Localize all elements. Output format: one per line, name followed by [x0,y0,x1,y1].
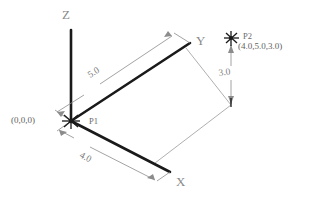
coordinate-diagram: Z Y X 5.0 [0,0,313,204]
dim-arrow-end [147,174,155,180]
dimension-z-3: 3.0 [218,45,234,104]
p2-coords-label: (4.0,5.0,3.0) [238,41,282,51]
origin-coords-label: (0,0,0) [11,115,35,125]
z-axis-label: Z [62,7,70,22]
origin-point-marker [62,113,80,129]
dimension-label-3: 3.0 [218,66,231,78]
dim-arrow-start [228,45,234,53]
x-axis-label: X [176,174,186,189]
diagram-canvas: Z Y X 5.0 [0,0,313,204]
dimension-x-4: 4.0 [57,121,170,181]
y-axis-label: Y [196,33,206,48]
dimension-y-5: 5.0 [55,31,190,121]
p2-label: P2 [243,31,252,41]
x-axis-line [71,121,170,172]
y-axis-line [71,43,190,121]
p1-label: P1 [89,116,98,126]
dim-arrow-end [164,31,172,37]
p2-point-marker [224,31,239,46]
dimension-label-5: 5.0 [86,65,102,80]
dim-arrow-start [59,130,67,136]
dimension-label-4: 4.0 [78,150,93,165]
